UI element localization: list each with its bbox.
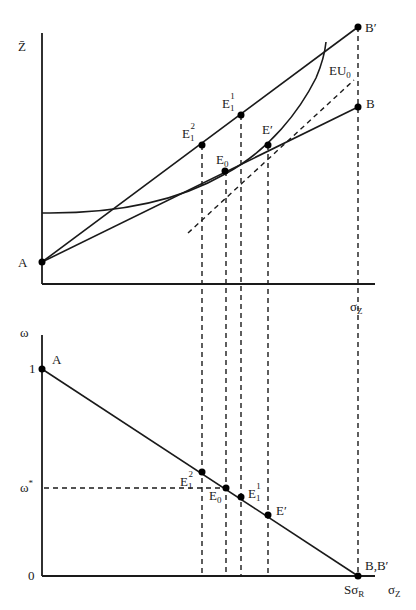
- y-tick-0: 0: [28, 568, 35, 583]
- label-e1-2-top: E12: [182, 121, 195, 143]
- label-e1-2-bottom: E12: [180, 469, 193, 491]
- x-tick-s-sigma-r: SσR: [344, 582, 364, 599]
- point-b-bprime-bottom: [355, 573, 362, 580]
- label-a-top: A: [18, 255, 28, 270]
- top-x-axis-label: σZ: [350, 299, 363, 316]
- point-e1-2-bottom: [199, 469, 206, 476]
- y-tick-omega-star: ω*: [20, 478, 34, 495]
- label-eu0: EU0: [329, 63, 351, 80]
- point-b-prime: [355, 24, 362, 31]
- point-e0-bottom: [223, 485, 230, 492]
- bottom-y-axis-label: ω: [20, 325, 29, 340]
- top-y-axis-label: Z̄: [18, 39, 26, 54]
- point-e1-2-top: [199, 142, 206, 149]
- label-e0-top: E0: [216, 152, 229, 169]
- label-e1-1-bottom: E11: [248, 481, 261, 503]
- point-e1-1-bottom: [238, 494, 245, 501]
- point-a-bottom: [39, 366, 46, 373]
- two-panel-diagram: Z̄ σZ A B′ B EU0 E12 E11 E′ E0 ω 1 0 ω* …: [0, 0, 416, 610]
- label-b-prime: B′: [365, 20, 377, 35]
- point-e-prime-top: [265, 142, 272, 149]
- label-b: B: [366, 96, 375, 111]
- y-tick-1: 1: [29, 361, 36, 376]
- top-panel: Z̄ σZ A B′ B EU0 E12 E11 E′ E0: [18, 20, 377, 576]
- label-e-prime-bottom: E′: [276, 503, 287, 518]
- label-e0-bottom: E0: [209, 488, 222, 505]
- bottom-panel: ω 1 0 ω* A B,B′ SσR σZ E12 E0 E11 E′: [20, 325, 401, 599]
- point-e1-1-top: [238, 112, 245, 119]
- label-a-bottom: A: [52, 352, 62, 367]
- label-b-bprime: B,B′: [365, 558, 389, 573]
- line-a-b: [42, 107, 358, 262]
- label-e1-1-top: E11: [222, 91, 235, 113]
- point-e-prime-bottom: [265, 512, 272, 519]
- label-e-prime-top: E′: [262, 122, 273, 137]
- point-b: [355, 104, 362, 111]
- dashed-tangent-line: [188, 80, 354, 233]
- bottom-x-axis-label: σZ: [388, 582, 401, 599]
- point-a-top: [39, 259, 46, 266]
